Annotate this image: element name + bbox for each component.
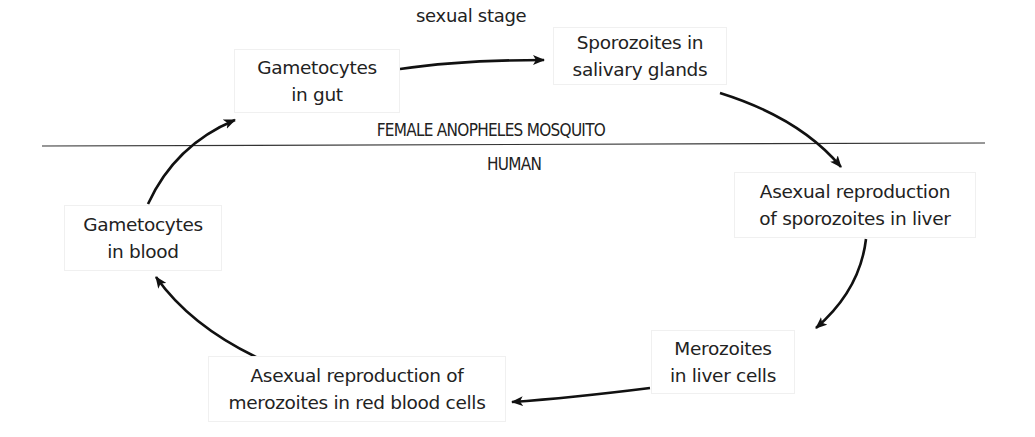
node-line: salivary glands (573, 56, 708, 83)
node-sporozoites-in-salivary-glands: Sporozoites in salivary glands (553, 27, 727, 85)
node-line: in gut (291, 81, 343, 108)
arrow-merozoites-to-rbc (512, 388, 650, 402)
node-asexual-reproduction-merozoites-rbc: Asexual reproduction of merozoites in re… (208, 356, 506, 422)
node-line: Gametocytes (257, 54, 377, 81)
node-line: in blood (107, 238, 179, 265)
node-gametocytes-in-blood: Gametocytes in blood (64, 205, 222, 271)
region-label-mosquito: FEMALE ANOPHELES MOSQUITO (377, 120, 605, 140)
node-line: Asexual reproduction of (250, 362, 463, 389)
node-line: Merozoites (674, 335, 771, 362)
region-divider (42, 143, 985, 146)
node-merozoites-in-liver-cells: Merozoites in liver cells (651, 330, 795, 394)
node-gametocytes-in-gut: Gametocytes in gut (234, 49, 400, 113)
arrow-liver-to-merozoites (816, 239, 866, 328)
arrow-blood-to-gut (148, 120, 235, 204)
node-line: Gametocytes (83, 211, 203, 238)
arrow-salivary-to-liver (720, 93, 841, 167)
node-line: of sporozoites in liver (759, 205, 950, 232)
node-line: merozoites in red blood cells (228, 389, 485, 416)
node-line: Asexual reproduction (760, 178, 950, 205)
arrow-rbc-to-blood (156, 277, 256, 357)
node-line: Sporozoites in (577, 29, 703, 56)
region-label-human: HUMAN (487, 154, 541, 174)
node-asexual-reproduction-sporozoites-liver: Asexual reproduction of sporozoites in l… (734, 172, 976, 238)
arrow-sexual-stage (400, 60, 544, 69)
node-line: in liver cells (670, 362, 776, 389)
edge-label-sexual-stage: sexual stage (416, 5, 526, 26)
